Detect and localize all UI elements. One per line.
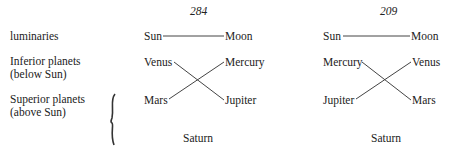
d1-sun: Sun: [144, 30, 162, 43]
d1-mercury: Mercury: [225, 56, 265, 69]
year-209: 209: [380, 5, 397, 18]
d1-moon: Moon: [225, 30, 252, 43]
label-superior-2: (above Sun): [10, 106, 66, 119]
mercury-mars-line-2: [362, 62, 411, 100]
d1-mars: Mars: [144, 94, 168, 107]
d2-venus: Venus: [412, 56, 440, 69]
d2-mars: Mars: [412, 94, 436, 107]
d2-saturn: Saturn: [371, 132, 401, 145]
brace-icon: [111, 94, 115, 145]
label-inferior-2: (below Sun): [10, 68, 67, 81]
year-284: 284: [190, 5, 207, 18]
d1-jupiter: Jupiter: [225, 94, 256, 107]
label-inferior-1: Inferior planets: [10, 55, 81, 68]
d1-venus: Venus: [144, 56, 172, 69]
d2-jupiter: Jupiter: [323, 94, 354, 107]
d2-sun: Sun: [323, 30, 341, 43]
d1-saturn: Saturn: [183, 132, 213, 145]
venus-jupiter-line-1: [174, 62, 224, 100]
label-luminaries: luminaries: [10, 30, 59, 43]
d2-moon: Moon: [411, 30, 438, 43]
connector-lines: [0, 0, 451, 154]
d2-mercury: Mercury: [323, 56, 363, 69]
label-superior-1: Superior planets: [10, 93, 85, 106]
